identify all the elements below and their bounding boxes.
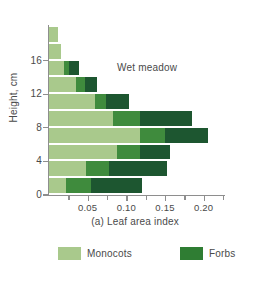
plot-area	[49, 27, 223, 195]
bar-segment	[49, 44, 61, 59]
x-tick-major	[204, 196, 205, 201]
bar-segment	[86, 161, 109, 176]
bar-segment	[165, 128, 208, 143]
legend-label: Monocots	[87, 248, 132, 259]
y-tick-label: 16	[12, 55, 42, 66]
x-tick-label: 0.15	[145, 202, 185, 213]
x-axis-title: (a) Leaf area index	[40, 216, 230, 227]
bar-segment	[49, 27, 58, 42]
bar-segment	[140, 111, 192, 126]
y-tick	[43, 94, 48, 95]
bar-row	[49, 145, 170, 160]
bar-segment	[140, 145, 169, 160]
bar-segment	[85, 77, 97, 92]
bar-segment	[109, 161, 166, 176]
bar-segment	[49, 61, 64, 76]
bar-row	[49, 27, 58, 42]
x-tick-major	[88, 196, 89, 201]
x-axis-line	[48, 195, 225, 196]
bar-segment	[49, 94, 95, 109]
x-tick-minor	[68, 196, 69, 200]
bar-group	[49, 27, 223, 195]
legend-entry: Forbs	[180, 247, 236, 260]
bar-row	[49, 94, 129, 109]
x-tick-minor	[146, 196, 147, 200]
x-tick-minor	[107, 196, 108, 200]
bar-segment	[140, 128, 165, 143]
y-tick-label: 0	[12, 189, 42, 200]
bar-row	[49, 111, 192, 126]
y-tick	[43, 194, 48, 195]
legend: MonocotsForbs	[0, 247, 275, 271]
bar-segment	[66, 178, 91, 193]
y-tick-label: 12	[12, 88, 42, 99]
x-tick-major	[126, 196, 127, 201]
figure-wet-meadow-leaf-area-index: Height, cm 0481216 0.050.100.150.20 Wet …	[0, 0, 275, 282]
x-tick-major	[165, 196, 166, 201]
x-tick-minor	[184, 196, 185, 200]
bar-row	[49, 128, 208, 143]
x-tick-label: 0.20	[184, 202, 224, 213]
bar-segment	[49, 145, 117, 160]
bar-row	[49, 61, 79, 76]
x-tick-minor	[223, 196, 224, 200]
legend-swatch	[58, 247, 81, 260]
bar-segment	[106, 94, 128, 109]
bar-row	[49, 161, 167, 176]
bar-segment	[49, 128, 140, 143]
legend-label: Forbs	[209, 248, 236, 259]
bar-segment	[49, 77, 76, 92]
bar-segment	[76, 77, 85, 92]
legend-entry: Monocots	[58, 247, 132, 260]
bar-segment	[95, 94, 107, 109]
bar-row	[49, 44, 61, 59]
bar-segment	[49, 111, 113, 126]
bar-row	[49, 77, 97, 92]
legend-swatch	[180, 247, 203, 260]
x-tick-label: 0.05	[68, 202, 108, 213]
bar-segment	[69, 61, 79, 76]
x-tick-label: 0.10	[106, 202, 146, 213]
bar-segment	[49, 161, 86, 176]
y-tick-label: 4	[12, 155, 42, 166]
bar-segment	[113, 111, 140, 126]
y-tick-label: 8	[12, 122, 42, 133]
bar-segment	[117, 145, 140, 160]
bar-segment	[49, 178, 66, 193]
bar-row	[49, 178, 142, 193]
y-tick	[43, 60, 48, 61]
y-tick	[43, 127, 48, 128]
bar-segment	[91, 178, 142, 193]
y-tick	[43, 161, 48, 162]
